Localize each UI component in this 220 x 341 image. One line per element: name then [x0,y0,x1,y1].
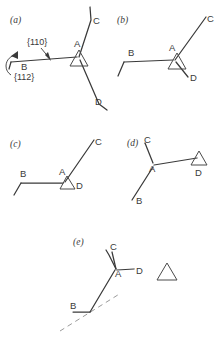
panel-c-tail-B [14,183,21,195]
panel-c-vertex-A: A [59,166,66,177]
panel-b-segment-AC [175,17,206,60]
panel-a-rotation-arrowhead [11,51,18,59]
panel-a-vertex-C: C [93,15,100,26]
panel-e-detached-triangle [157,263,177,280]
panel-a-tail-B [9,62,11,69]
panel-e-vertex-D: D [136,265,143,276]
panel-b-tail-B [118,62,124,76]
panel-a-vertex-D: D [95,96,102,107]
panel-b-vertex-C: C [207,13,214,24]
panel-b: (b) A B C D [117,13,214,83]
panel-b-vertex-A: A [169,42,176,53]
panel-a-annotation-110: {110} [27,37,47,47]
panel-e-vertex-B: B [70,300,76,311]
panel-a-vertex-A: A [74,38,81,49]
panel-a-segment-AD [80,60,107,110]
panel-d-segment-AC [145,143,153,163]
panel-c-vertex-D: D [76,180,83,191]
panel-c-vertex-B: B [20,168,26,179]
panel-a-segment-AC [79,7,91,57]
panel-d-segment-AD [154,158,197,165]
panel-b-vertex-B: B [128,47,134,58]
panel-e-segment-BA [90,270,115,312]
panel-d: (d) A B C D [127,134,207,206]
panel-e-segment-AC [106,250,116,269]
panel-a-label: (a) [10,15,21,26]
panel-d-vertex-A: A [149,163,156,174]
panel-b-segment-BA [124,60,173,62]
panel-b-vertex-D: D [190,72,197,83]
panel-e-vertex-C: C [110,241,117,252]
panel-e-segment-AC2 [112,252,116,269]
panel-b-label: (b) [117,15,128,26]
panel-c-segment-AC [65,140,94,182]
panel-c-label: (c) [10,139,21,150]
panel-c: (c) A B C D [10,136,102,195]
panel-d-vertex-B: B [136,195,142,206]
panel-c-vertex-C: C [95,136,102,147]
panel-d-vertex-C: C [144,134,151,145]
panel-d-vertex-D: D [195,167,202,178]
panel-e-label: (e) [73,237,84,248]
panel-a: (a) {110} {112} A B C D [6,7,107,110]
panel-a-vertex-B: B [21,61,27,72]
figure-svg: (a) {110} {112} A B C D (b) A B C D [0,0,220,341]
panel-a-annotation-112: {112} [14,72,34,82]
panel-d-label: (d) [127,138,138,149]
panel-e-vertex-A: A [115,268,122,279]
panel-b-triangle-marker [168,53,186,69]
panel-e: (e) A B C D [60,237,177,331]
panel-a-triangle-marker [70,50,88,66]
figure-canvas: (a) {110} {112} A B C D (b) A B C D [0,0,220,341]
